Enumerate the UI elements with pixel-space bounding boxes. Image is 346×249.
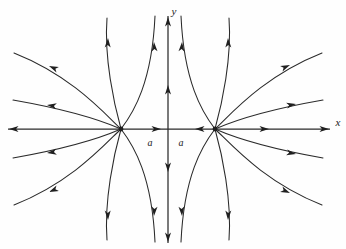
fieldline-arrow — [286, 101, 296, 109]
fieldline-arrow — [105, 210, 111, 220]
charge-left-node — [119, 127, 124, 132]
fieldline — [215, 129, 323, 158]
fieldline — [13, 100, 121, 129]
distance-label-left: a — [148, 137, 153, 148]
field-line-diagram: y x a a — [0, 0, 346, 249]
y-axis-label: y — [171, 5, 177, 17]
fieldline-group-left-upper-outer — [13, 18, 121, 129]
fieldline — [215, 100, 323, 129]
fieldline — [14, 53, 121, 129]
fieldline — [121, 16, 155, 129]
fieldline — [215, 53, 322, 129]
fieldline-arrow — [105, 38, 111, 48]
charge-right-node — [213, 127, 218, 132]
fieldline-arrow — [48, 185, 59, 194]
fieldline — [215, 129, 230, 240]
fieldline — [13, 129, 121, 158]
fieldline-arrow — [225, 38, 231, 48]
fieldline — [106, 18, 121, 129]
fieldline-arrow — [280, 62, 291, 71]
fieldline — [106, 129, 121, 240]
fieldline-arrow — [225, 210, 231, 220]
x-axis — [8, 126, 330, 132]
fieldline — [215, 18, 230, 129]
fieldline — [181, 129, 215, 242]
fieldline-arrow — [286, 149, 296, 157]
fieldline-group-right-lower-outer — [215, 129, 323, 240]
fieldline-arrow — [280, 186, 291, 195]
fieldline — [181, 16, 215, 129]
fieldline — [14, 129, 121, 205]
fieldline — [215, 129, 322, 205]
distance-label-right: a — [179, 137, 184, 148]
fieldline-group-right-upper-outer — [215, 18, 323, 129]
figure-canvas: y x a a — [0, 0, 346, 249]
fieldline-arrow — [48, 63, 59, 72]
x-axis-label: x — [335, 116, 341, 128]
fieldline-group-left-lower-outer — [13, 129, 121, 240]
